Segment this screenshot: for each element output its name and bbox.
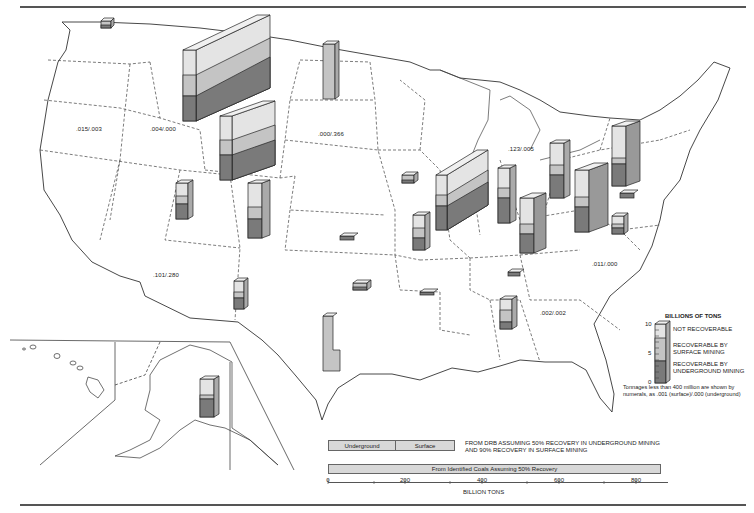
legend-tick-5: 5 [648,350,651,356]
axis-tick-800: 800 [631,477,641,483]
bar-kentucky [520,193,546,253]
drb-note-line2: AND 90% RECOVERY IN SURFACE MINING [465,447,660,454]
bar-virginia [612,213,628,234]
bar-wyoming [220,101,275,180]
drb-note-line1: FROM DRB ASSUMING 50% RECOVERY IN UNDERG… [465,440,660,447]
legend-not-recoverable: NOT RECOVERABLE [673,326,732,333]
axis-tick-200: 200 [400,477,410,483]
bar-tennessee [508,269,524,276]
identified-coals-bar: From Identified Coals Assuming 50% Recov… [328,464,661,474]
billion-tons-axis [328,482,668,483]
axis-tick-0: 0 [326,477,329,483]
label-south-dakota: .000/.366 [318,131,344,137]
inset-frame [10,340,294,470]
bar-missouri [413,212,430,250]
label-north-carolina: .011/.000 [592,261,617,267]
legend-surface-label: RECOVERABLE BY SURFACE MINING [673,342,728,355]
bar-maryland [620,190,638,198]
bar-west-virginia [575,163,608,232]
drb-underground-segment: Underground [329,441,396,450]
bar-indiana [498,165,516,223]
axis-tick-400: 400 [477,477,487,483]
hawaii-islands [23,345,105,398]
bar-colorado [248,180,270,238]
bar-oklahoma [353,280,371,290]
bar-utah [176,180,193,219]
bar-ohio [550,140,570,198]
drb-surface-segment: Surface [396,441,454,450]
axis-label: BILLION TONS [463,489,504,495]
bar-north-dakota [323,41,339,99]
label-idaho: .004/.000 [150,126,176,132]
coal-bars [101,15,640,417]
bar-alabama [500,296,517,329]
bar-alaska [200,376,219,417]
legend-title: BILLIONS OF TONS [665,313,721,319]
bar-illinois [436,150,488,230]
bar-new-mexico [234,278,248,309]
drb-bar: Underground Surface [328,440,455,451]
bar-washington [101,18,114,28]
legend-surface: RECOVERABLE BY SURFACE MINING [673,342,728,355]
axis-tick-600: 600 [554,477,564,483]
label-washington: .015/.003 [76,126,102,132]
legend-tick-10: 10 [645,321,652,327]
label-arizona: .101/.280 [153,272,179,278]
legend-underground: RECOVERABLE BY UNDERGROUND MINING [673,361,744,374]
drb-note: FROM DRB ASSUMING 50% RECOVERY IN UNDERG… [465,440,660,453]
bar-kansas [340,233,358,240]
us-coal-map [0,0,754,513]
label-michigan: .123/.005 [508,146,534,152]
legend-bar [655,321,670,383]
legend-note: Tonnages less than 400 million are shown… [623,384,741,397]
legend-note-line2: numerals, as .001 (surface)/.000 (underg… [623,391,741,398]
legend-underground-label: RECOVERABLE BY UNDERGROUND MINING [673,361,744,374]
bar-pennsylvania [612,121,640,186]
bar-texas [323,313,340,371]
legend-note-line1: Tonnages less than 400 million are shown… [623,384,741,391]
alaska-outline [115,345,278,465]
bar-iowa [402,172,418,183]
label-georgia: .002/.002 [540,310,566,316]
